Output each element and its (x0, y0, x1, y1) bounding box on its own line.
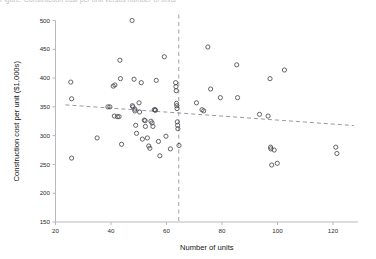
data-point-marker (130, 18, 134, 22)
data-point-marker (335, 151, 339, 155)
data-point-marker (118, 58, 122, 62)
data-point-marker (209, 87, 213, 91)
figure-container: Figure: Construction cost per unit versu… (0, 0, 376, 259)
data-point-marker (334, 145, 338, 149)
data-point-marker (156, 139, 160, 143)
x-tick-label: 40 (108, 227, 115, 234)
fitted-trend-line (65, 105, 353, 126)
data-point-marker (206, 45, 210, 49)
cropped-caption-text: Figure: Construction cost per unit versu… (0, 0, 376, 7)
data-point-marker (69, 80, 73, 84)
data-point-marker (137, 101, 141, 105)
data-point-marker (268, 77, 272, 81)
data-point-marker (282, 68, 286, 72)
axis-labels-group: 15020025030035040045050020406080100120Nu… (12, 17, 339, 252)
x-tick-label: 120 (328, 227, 339, 234)
trend-line-group (65, 105, 353, 126)
scatter-plot: 15020025030035040045050020406080100120Nu… (0, 0, 376, 259)
y-tick-label: 350 (40, 103, 51, 110)
data-point-marker (137, 110, 141, 114)
data-point-marker (139, 81, 143, 85)
cropped-caption-label: Figure: Construction cost per unit versu… (0, 0, 176, 3)
data-point-marker (132, 77, 136, 81)
y-tick-label: 500 (40, 17, 51, 24)
data-point-marker (235, 96, 239, 100)
x-tick-label: 60 (163, 227, 170, 234)
y-axis-title: Construction cost per unit ($1,000s) (12, 61, 21, 182)
data-points-group (69, 18, 339, 167)
data-point-marker (164, 134, 168, 138)
data-point-marker (158, 154, 162, 158)
data-point-marker (174, 81, 178, 85)
data-point-marker (235, 63, 239, 67)
data-point-marker (145, 136, 149, 140)
y-tick-label: 250 (40, 161, 51, 168)
y-tick-label: 450 (40, 45, 51, 52)
data-point-marker (95, 136, 99, 140)
y-tick-label: 300 (40, 132, 51, 139)
data-point-marker (168, 147, 172, 151)
data-point-marker (119, 142, 123, 146)
y-tick-label: 400 (40, 74, 51, 81)
data-point-marker (257, 112, 261, 116)
x-tick-label: 20 (52, 227, 59, 234)
data-point-marker (69, 156, 73, 160)
data-point-marker (143, 124, 147, 128)
x-tick-label: 80 (219, 227, 226, 234)
y-tick-label: 150 (40, 218, 51, 225)
data-point-marker (134, 131, 138, 135)
data-point-marker (118, 77, 122, 81)
data-point-marker (134, 123, 138, 127)
data-point-marker (175, 106, 179, 110)
data-point-marker (194, 101, 198, 105)
data-point-marker (154, 78, 158, 82)
data-point-marker (218, 96, 222, 100)
x-tick-label: 100 (272, 227, 283, 234)
data-point-marker (174, 85, 178, 89)
x-axis-title: Number of units (180, 243, 234, 252)
data-point-marker (275, 161, 279, 165)
data-point-marker (162, 55, 166, 59)
data-point-marker (140, 137, 144, 141)
data-point-marker (266, 114, 270, 118)
data-point-marker (69, 97, 73, 101)
data-point-marker (270, 163, 274, 167)
data-point-marker (174, 89, 178, 93)
y-tick-label: 200 (40, 189, 51, 196)
